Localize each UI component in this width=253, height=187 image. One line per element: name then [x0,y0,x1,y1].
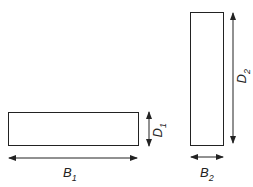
beam-2-rect [191,13,224,146]
b2-label: B2 [200,166,214,183]
d2-label: D2 [235,69,252,83]
beam-orientation-diagram: B1 D1 D2 B2 [0,0,253,187]
b1-label: B1 [63,166,77,183]
beam-1-rect [9,113,139,146]
diagram-canvas [0,0,253,187]
d1-label: D1 [151,123,168,137]
